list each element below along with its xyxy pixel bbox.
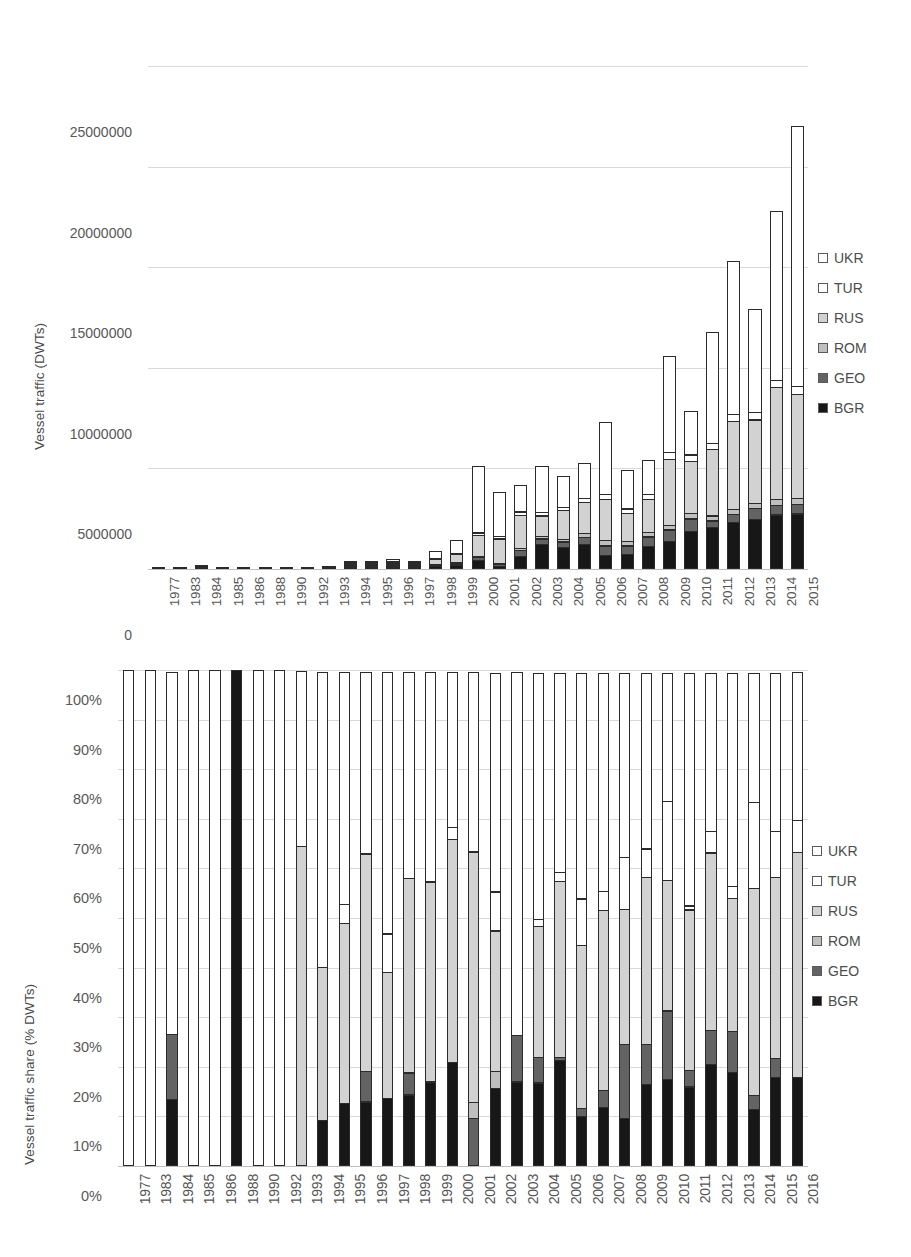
bar-segment-rus[interactable] xyxy=(621,513,634,542)
bar-segment-bgr[interactable] xyxy=(447,1062,458,1166)
stacked-bar[interactable] xyxy=(447,670,458,1166)
stacked-bar[interactable] xyxy=(621,466,634,569)
bar-slot[interactable] xyxy=(528,670,550,1166)
bar-slot[interactable] xyxy=(355,670,377,1166)
bar-segment-ukr[interactable] xyxy=(642,460,655,494)
bar-slot[interactable] xyxy=(657,670,679,1166)
bar-segment-rus[interactable] xyxy=(727,898,738,1032)
stacked-bar[interactable] xyxy=(706,328,719,569)
bar-segment-geo[interactable] xyxy=(468,1118,479,1166)
bar-segment-rus[interactable] xyxy=(468,852,479,1103)
stacked-bar[interactable] xyxy=(770,207,783,569)
bar-segment-bgr[interactable] xyxy=(195,567,208,569)
stacked-bar[interactable] xyxy=(705,670,716,1166)
bar-slot[interactable] xyxy=(787,66,808,569)
bar-slot[interactable] xyxy=(226,670,248,1166)
bar-slot[interactable] xyxy=(148,66,169,569)
bar-segment-bgr[interactable] xyxy=(472,560,485,569)
bar-segment-rus[interactable] xyxy=(705,853,716,1032)
stacked-bar[interactable] xyxy=(253,670,264,1166)
bar-segment-tur[interactable] xyxy=(490,892,501,932)
bar-segment-ukr[interactable] xyxy=(382,672,393,934)
stacked-bar[interactable] xyxy=(662,670,673,1166)
bar-segment-bgr[interactable] xyxy=(514,556,527,569)
bar-segment-tur[interactable] xyxy=(748,802,759,889)
bar-segment-ukr[interactable] xyxy=(425,672,436,883)
stacked-bar[interactable] xyxy=(599,418,612,569)
bar-segment-bgr[interactable] xyxy=(317,1120,328,1166)
bar-slot[interactable] xyxy=(485,670,507,1166)
bar-segment-rus[interactable] xyxy=(425,882,436,1083)
bar-segment-bgr[interactable] xyxy=(386,567,399,569)
bar-slot[interactable] xyxy=(679,670,701,1166)
bar-segment-ukr[interactable] xyxy=(791,126,804,387)
bar-segment-ukr[interactable] xyxy=(662,673,673,802)
stacked-bar[interactable] xyxy=(365,563,378,569)
bar-slot[interactable] xyxy=(636,670,658,1166)
bar-segment-ukr[interactable] xyxy=(705,673,716,832)
bar-segment-ukr[interactable] xyxy=(619,673,630,858)
bar-segment-ukr[interactable] xyxy=(339,672,350,904)
stacked-bar[interactable] xyxy=(216,567,229,569)
bar-segment-bgr[interactable] xyxy=(684,1087,695,1166)
legend-item-rom[interactable]: ROM xyxy=(818,333,867,363)
bar-segment-rus[interactable] xyxy=(770,877,781,1058)
bar-segment-rus[interactable] xyxy=(706,449,719,516)
bar-segment-rus[interactable] xyxy=(684,910,695,1071)
legend-item-rus[interactable]: RUS xyxy=(812,896,861,926)
bar-segment-bgr[interactable] xyxy=(339,1103,350,1166)
bar-slot[interactable] xyxy=(467,66,488,569)
stacked-bar[interactable] xyxy=(360,670,371,1166)
bar-segment-rus[interactable] xyxy=(403,878,414,1073)
bar-segment-ukr[interactable] xyxy=(209,670,220,1166)
bar-slot[interactable] xyxy=(441,670,463,1166)
bar-slot[interactable] xyxy=(595,66,616,569)
bar-segment-geo[interactable] xyxy=(403,1073,414,1096)
bar-segment-rus[interactable] xyxy=(493,539,506,564)
bar-slot[interactable] xyxy=(638,66,659,569)
bar-segment-ukr[interactable] xyxy=(621,470,634,509)
bar-segment-rus[interactable] xyxy=(662,880,673,1011)
bar-slot[interactable] xyxy=(276,66,297,569)
stacked-bar[interactable] xyxy=(123,670,134,1166)
bar-slot[interactable] xyxy=(334,670,356,1166)
bar-segment-ukr[interactable] xyxy=(557,476,570,508)
legend-item-geo[interactable]: GEO xyxy=(818,363,867,393)
bar-segment-ukr[interactable] xyxy=(706,332,719,444)
bar-slot[interactable] xyxy=(382,66,403,569)
bar-slot[interactable] xyxy=(614,670,636,1166)
bar-segment-bgr[interactable] xyxy=(727,1072,738,1166)
bar-slot[interactable] xyxy=(340,66,361,569)
bar-segment-rus[interactable] xyxy=(748,420,761,505)
bar-segment-rus[interactable] xyxy=(642,499,655,533)
stacked-bar[interactable] xyxy=(188,670,199,1166)
bar-slot[interactable] xyxy=(312,670,334,1166)
bar-slot[interactable] xyxy=(118,670,140,1166)
bar-slot[interactable] xyxy=(254,66,275,569)
stacked-bar[interactable] xyxy=(493,488,506,569)
bar-segment-bgr[interactable] xyxy=(619,1118,630,1166)
bar-segment-tur[interactable] xyxy=(447,827,458,840)
bar-segment-tur[interactable] xyxy=(576,899,587,946)
bar-slot[interactable] xyxy=(680,66,701,569)
bar-slot[interactable] xyxy=(398,670,420,1166)
bar-segment-ukr[interactable] xyxy=(684,411,697,455)
bar-segment-ukr[interactable] xyxy=(274,670,285,1166)
stacked-bar[interactable] xyxy=(382,670,393,1166)
bar-segment-rus[interactable] xyxy=(557,510,570,539)
stacked-bar[interactable] xyxy=(748,305,761,569)
bar-segment-ukr[interactable] xyxy=(468,672,479,852)
bar-slot[interactable] xyxy=(297,66,318,569)
bar-segment-rus[interactable] xyxy=(598,910,609,1091)
bar-segment-bgr[interactable] xyxy=(770,515,783,569)
bar-segment-geo[interactable] xyxy=(748,1095,759,1109)
bar-segment-rus[interactable] xyxy=(663,459,676,525)
bar-segment-ukr[interactable] xyxy=(216,567,229,569)
bar-segment-rom[interactable] xyxy=(490,1071,501,1089)
bar-segment-tur[interactable] xyxy=(641,849,652,879)
bar-segment-bgr[interactable] xyxy=(684,531,697,569)
bar-segment-bgr[interactable] xyxy=(166,1099,177,1166)
bar-segment-bgr[interactable] xyxy=(662,1079,673,1166)
bar-segment-tur[interactable] xyxy=(339,904,350,924)
bar-segment-rus[interactable] xyxy=(535,516,548,537)
